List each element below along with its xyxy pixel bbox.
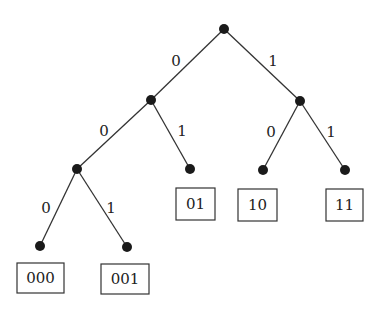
edge-label: 0 [171,52,181,70]
leaf-codeword: 11 [335,196,354,214]
tree-node-n11 [340,165,350,175]
tree-node-n1 [295,96,305,106]
tree-node-n00 [72,164,82,174]
tree-node-n01 [185,164,195,174]
tree-edge [224,29,300,101]
edge-label: 1 [326,123,336,141]
leaf-box-10: 10 [238,189,277,221]
tree-edge [300,101,345,170]
edge-label: 0 [41,199,51,217]
tree-node-n001 [122,242,132,252]
edge-label: 1 [106,199,116,217]
edge-label: 1 [177,122,187,140]
leaf-box-11: 11 [326,189,363,221]
leaf-codeword: 10 [248,196,267,214]
tree-node-root [219,24,229,34]
tree-node-n000 [35,241,45,251]
tree-edge [77,100,151,169]
tree-edge [151,29,224,100]
leaf-box-01: 01 [176,188,215,220]
edge-label: 1 [268,52,278,70]
edge-label: 0 [266,123,276,141]
leaf-codeword: 01 [186,195,205,213]
tree-node-n0 [146,95,156,105]
leaf-codewords: 011011000001 [17,188,363,294]
leaf-box-000: 000 [17,263,64,293]
tree-node-n10 [258,165,268,175]
edge-label: 0 [99,122,109,140]
leaf-box-001: 001 [101,264,149,294]
binary-code-tree: 01010101 011011000001 [0,0,386,311]
leaf-codeword: 001 [111,270,140,288]
tree-edge [77,169,127,247]
leaf-codeword: 000 [26,269,55,287]
